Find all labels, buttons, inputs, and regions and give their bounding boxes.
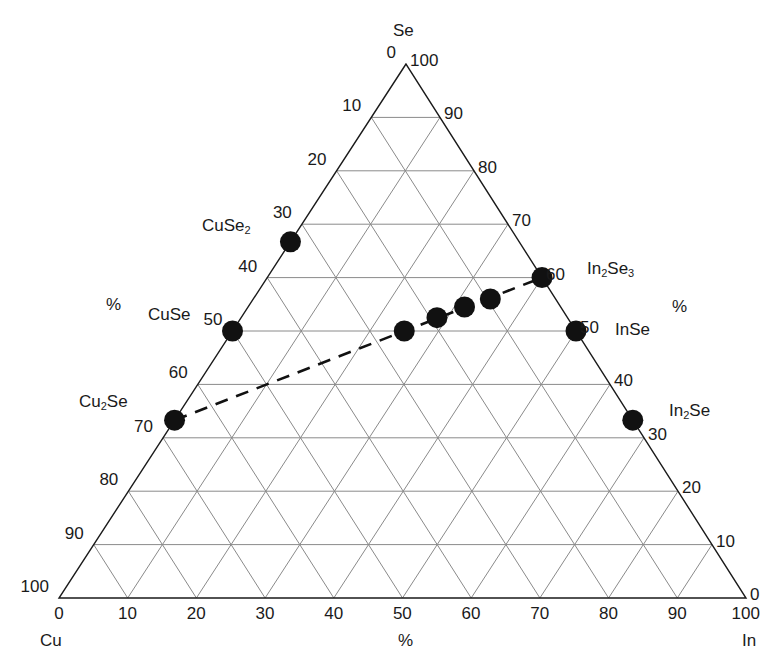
left-axis-tick: 90 (65, 525, 84, 542)
right-axis-tick: 60 (546, 266, 565, 283)
grid-line-in (403, 331, 577, 598)
bottom-axis-tick: 60 (462, 605, 481, 622)
data-points (164, 231, 643, 430)
left-axis-tick: 100 (21, 578, 49, 595)
right-axis-tick: 10 (716, 533, 735, 550)
grid-line-cu (163, 438, 265, 598)
point-cu2se (164, 410, 185, 431)
bottom-axis-tick: 30 (256, 605, 275, 622)
grid-line-in (540, 438, 644, 598)
point-in2se (622, 410, 643, 431)
point-cuse2 (280, 231, 301, 252)
axis-unit-bottom: % (398, 632, 413, 649)
left-axis-tick: 0 (387, 44, 396, 61)
label-in2se: In2Se (669, 402, 710, 421)
right-axis-tick: 50 (580, 319, 599, 336)
label-cu2se-a: Cu (79, 392, 101, 411)
right-axis-tick: 0 (750, 586, 759, 603)
left-axis-tick: 40 (238, 258, 257, 275)
label-inse: InSe (615, 321, 650, 338)
label-in2se-b: Se (689, 401, 710, 420)
grid-line-cu (233, 331, 403, 598)
right-axis-tick: 20 (682, 479, 701, 496)
right-axis-tick: 90 (444, 105, 463, 122)
ternary-diagram (0, 0, 778, 670)
bottom-axis-tick: 40 (324, 605, 343, 622)
right-axis-tick: 70 (512, 212, 531, 229)
label-cu2se-b: Se (107, 392, 128, 411)
vertex-label-in: In (742, 632, 756, 649)
right-axis-tick: 40 (614, 372, 633, 389)
bottom-axis-tick: 20 (187, 605, 206, 622)
right-axis-tick: 80 (478, 159, 497, 176)
label-in2se3-sub2: 3 (628, 267, 634, 279)
point-sample (426, 307, 447, 328)
label-in2se3-b: Se (607, 259, 628, 278)
bottom-axis-tick: 90 (668, 605, 687, 622)
label-in2se3-a: In (587, 259, 601, 278)
grid-line-in (677, 545, 712, 598)
bottom-axis-tick: 70 (530, 605, 549, 622)
grid-line-in (128, 117, 440, 598)
bottom-axis-tick: 0 (54, 605, 63, 622)
bottom-axis-tick: 10 (118, 605, 137, 622)
vertex-label-cu: Cu (40, 632, 62, 649)
grid-lines (94, 117, 712, 598)
vertex-label-se: Se (393, 22, 414, 39)
left-axis-tick: 70 (134, 418, 153, 435)
grid-line-in (265, 224, 508, 598)
point-sample (480, 288, 501, 309)
label-cu2se: Cu2Se (79, 393, 128, 412)
grid-line-cu (94, 545, 128, 598)
label-cuse2-sub: 2 (245, 224, 251, 236)
bottom-axis-tick: 100 (732, 605, 760, 622)
left-axis-tick: 50 (204, 311, 223, 328)
left-axis-tick: 30 (273, 204, 292, 221)
grid-line-cu (302, 224, 540, 598)
axis-unit-right: % (672, 298, 687, 315)
label-cuse: CuSe (148, 306, 191, 323)
bottom-axis-tick: 80 (599, 605, 618, 622)
bottom-axis-tick: 50 (393, 605, 412, 622)
label-cuse2: CuSe2 (202, 217, 251, 236)
label-cuse2-main: CuSe (202, 216, 245, 235)
point-cuse (222, 321, 243, 342)
right-axis-tick: 30 (648, 426, 667, 443)
left-axis-tick: 20 (308, 151, 327, 168)
grid-line-cu (371, 117, 677, 598)
left-axis-tick: 60 (169, 364, 188, 381)
point-sample (454, 296, 475, 317)
left-axis-tick: 80 (99, 471, 118, 488)
label-in2se-a: In (669, 401, 683, 420)
axis-unit-left: % (106, 296, 121, 313)
label-in2se3: In2Se3 (587, 260, 634, 279)
right-axis-tick: 100 (410, 52, 438, 69)
left-axis-tick: 10 (342, 97, 361, 114)
point-sample (394, 321, 415, 342)
